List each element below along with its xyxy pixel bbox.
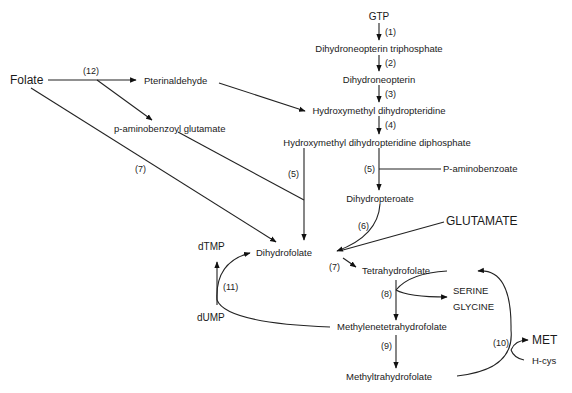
edge-11-methylene — [217, 300, 330, 327]
enzyme-label-7-thf: (7) — [329, 263, 340, 272]
node-p-aminobenzoate: P-aminobenzoate — [443, 164, 517, 174]
edge-11-dhf — [217, 253, 250, 300]
enzyme-label-5-main: (5) — [364, 165, 375, 174]
node-tetrahydrofolate: Tetrahydrofolate — [362, 266, 430, 276]
enzyme-label-6: (6) — [358, 222, 369, 231]
enzyme-label-5-side: (5) — [288, 170, 299, 179]
node-folate: Folate — [10, 74, 43, 86]
node-gtp: GTP — [369, 12, 390, 22]
node-dtmp: dTMP — [198, 242, 225, 252]
enzyme-label-2: (2) — [385, 59, 396, 68]
node-dihydrofolate: Dihydrofolate — [256, 248, 312, 258]
enzyme-label-10: (10) — [493, 339, 509, 348]
enzyme-label-4: (4) — [385, 121, 396, 130]
node-dihydroneopterin-triphosphate: Dihydroneopterin triphosphate — [315, 44, 442, 54]
node-dihydropteroate: Dihydropteroate — [346, 194, 414, 204]
pathway-edges — [0, 0, 572, 393]
node-h-cys: H-cys — [532, 356, 556, 366]
node-glycine: GLYCINE — [453, 302, 494, 312]
node-p-aminobenzoyl-glutamate: p-aminobenzoyl glutamate — [114, 124, 225, 134]
edge-10-hcys — [511, 350, 524, 360]
enzyme-label-3: (3) — [385, 90, 396, 99]
node-hydroxymethyl-dihydropteridine-diphosphate: Hydroxymethyl dihydropteridine diphospha… — [283, 138, 470, 148]
node-hydroxymethyl-dihydropteridine: Hydroxymethyl dihydropteridine — [312, 106, 445, 116]
enzyme-label-12: (12) — [83, 67, 99, 76]
enzyme-label-1: (1) — [385, 28, 396, 37]
node-pterinaldehyde: Pterinaldehyde — [144, 76, 207, 86]
edge-10-met — [511, 340, 528, 350]
node-serine: SERINE — [453, 286, 488, 296]
edge-glycine — [396, 290, 447, 297]
enzyme-label-11: (11) — [223, 283, 238, 292]
enzyme-label-8: (8) — [381, 290, 392, 299]
enzyme-label-7-folate: (7) — [135, 165, 146, 174]
node-dihydroneopterin: Dihydroneopterin — [343, 75, 415, 85]
edge-7-thf — [343, 258, 356, 267]
node-methylenetetrahydrofolate: Methylenetetrahydrofolate — [337, 322, 447, 332]
node-met: MET — [532, 334, 557, 346]
edge-12-pabg — [97, 80, 152, 120]
node-dump: dUMP — [197, 313, 225, 323]
node-glutamate: GLUTAMATE — [446, 215, 518, 227]
enzyme-label-9: (9) — [381, 342, 392, 351]
edge-pterin-hm — [219, 83, 305, 111]
node-methyltetrahydrofolate: Methyltrahydrofolate — [346, 372, 432, 382]
